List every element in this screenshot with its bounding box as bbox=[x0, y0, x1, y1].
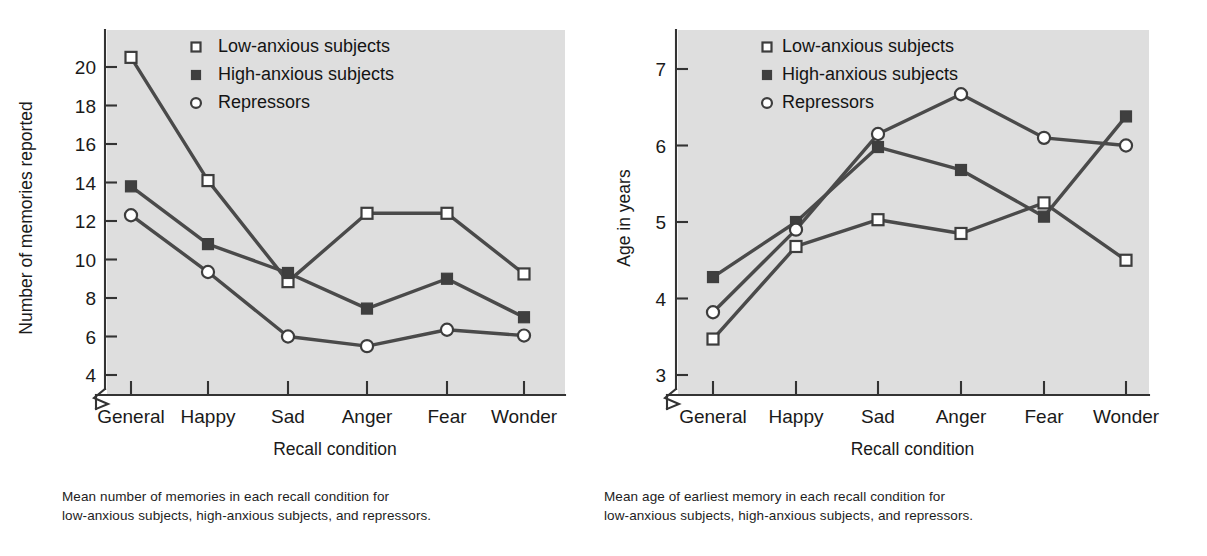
x-axis-tick-label: General bbox=[679, 406, 747, 427]
legend-label: Repressors bbox=[782, 92, 874, 112]
data-point-marker bbox=[126, 52, 137, 63]
data-point-marker bbox=[442, 273, 453, 284]
x-axis-tick-label: Happy bbox=[769, 406, 824, 427]
data-point-marker bbox=[1121, 111, 1132, 122]
legend-open-circle-marker bbox=[762, 98, 772, 108]
y-axis-tick-label: 4 bbox=[655, 289, 666, 310]
age-line-chart: 34567GeneralHappySadAngerFearWonderAge i… bbox=[604, 0, 1207, 480]
data-point-marker bbox=[791, 241, 802, 252]
legend-label: Low-anxious subjects bbox=[218, 36, 390, 56]
data-point-marker bbox=[126, 181, 137, 192]
data-point-marker bbox=[1038, 132, 1050, 144]
y-axis-tick-label: 3 bbox=[655, 365, 666, 386]
data-point-marker bbox=[1121, 255, 1132, 266]
x-axis-tick-label: Happy bbox=[181, 406, 236, 427]
data-point-marker bbox=[361, 340, 373, 352]
data-point-marker bbox=[282, 330, 294, 342]
legend-label: High-anxious subjects bbox=[782, 64, 958, 84]
legend-label: Low-anxious subjects bbox=[782, 36, 954, 56]
legend-label: Repressors bbox=[218, 92, 310, 112]
chart-panel-memories: 468101214161820GeneralHappySadAngerFearW… bbox=[0, 0, 603, 556]
data-point-marker bbox=[362, 208, 373, 219]
chart-panel-age: 34567GeneralHappySadAngerFearWonderAge i… bbox=[604, 0, 1207, 556]
data-point-marker bbox=[872, 128, 884, 140]
data-point-marker bbox=[1039, 197, 1050, 208]
plot-background bbox=[107, 30, 565, 395]
data-point-marker bbox=[708, 334, 719, 345]
x-axis-tick-label: General bbox=[97, 406, 165, 427]
data-point-marker bbox=[956, 164, 967, 175]
data-point-marker bbox=[519, 312, 530, 323]
y-axis-tick-label: 6 bbox=[85, 327, 96, 348]
y-axis-tick-label: 4 bbox=[85, 365, 96, 386]
data-point-marker bbox=[442, 208, 453, 219]
caption-line-1: Mean age of earliest memory in each reca… bbox=[604, 487, 1207, 506]
legend-open-square-marker bbox=[192, 43, 201, 52]
y-axis-tick-label: 20 bbox=[75, 57, 96, 78]
x-axis-tick-label: Sad bbox=[271, 406, 305, 427]
x-axis-tick-label: Fear bbox=[1024, 406, 1064, 427]
caption-line-2: low-anxious subjects, high-anxious subje… bbox=[62, 506, 665, 525]
data-point-marker bbox=[708, 272, 719, 283]
data-point-marker bbox=[1039, 211, 1050, 222]
y-axis-title: Age in years bbox=[614, 169, 634, 267]
y-axis-tick-label: 14 bbox=[75, 173, 97, 194]
data-point-marker bbox=[955, 88, 967, 100]
legend-label: High-anxious subjects bbox=[218, 64, 394, 84]
data-point-marker bbox=[707, 306, 719, 318]
legend-open-square-marker bbox=[763, 43, 772, 52]
memories-line-chart: 468101214161820GeneralHappySadAngerFearW… bbox=[0, 0, 603, 480]
data-point-marker bbox=[790, 224, 802, 236]
chart-caption-memories: Mean number of memories in each recall c… bbox=[0, 487, 665, 525]
y-axis-tick-label: 8 bbox=[85, 288, 96, 309]
data-point-marker bbox=[519, 268, 530, 279]
caption-line-1: Mean number of memories in each recall c… bbox=[62, 487, 665, 506]
data-point-marker bbox=[873, 142, 884, 153]
legend-open-circle-marker bbox=[191, 98, 201, 108]
x-axis-tick-label: Wonder bbox=[1093, 406, 1160, 427]
x-axis-title: Recall condition bbox=[273, 439, 397, 459]
data-point-marker bbox=[956, 228, 967, 239]
chart-caption-age: Mean age of earliest memory in each reca… bbox=[604, 487, 1207, 525]
data-point-marker bbox=[203, 175, 214, 186]
x-axis-title: Recall condition bbox=[851, 439, 975, 459]
caption-line-2: low-anxious subjects, high-anxious subje… bbox=[604, 506, 1207, 525]
data-point-marker bbox=[202, 266, 214, 278]
data-point-marker bbox=[283, 267, 294, 278]
x-axis-tick-label: Anger bbox=[342, 406, 393, 427]
x-axis-tick-label: Anger bbox=[936, 406, 987, 427]
y-axis-tick-label: 7 bbox=[655, 59, 666, 80]
y-axis-tick-label: 18 bbox=[75, 96, 96, 117]
legend-filled-square-marker bbox=[192, 71, 201, 80]
x-axis-tick-label: Sad bbox=[861, 406, 895, 427]
data-point-marker bbox=[203, 239, 214, 250]
data-point-marker bbox=[125, 209, 137, 221]
plot-background bbox=[678, 30, 1149, 395]
data-point-marker bbox=[441, 324, 453, 336]
y-axis-tick-label: 6 bbox=[655, 136, 666, 157]
y-axis-tick-label: 12 bbox=[75, 211, 96, 232]
data-point-marker bbox=[873, 214, 884, 225]
y-axis-tick-label: 16 bbox=[75, 134, 96, 155]
x-axis-tick-label: Wonder bbox=[491, 406, 558, 427]
x-axis-tick-label: Fear bbox=[427, 406, 467, 427]
data-point-marker bbox=[1120, 139, 1132, 151]
legend-filled-square-marker bbox=[763, 71, 772, 80]
data-point-marker bbox=[518, 329, 530, 341]
data-point-marker bbox=[362, 303, 373, 314]
y-axis-title: Number of memories reported bbox=[16, 101, 36, 334]
y-axis-tick-label: 5 bbox=[655, 212, 666, 233]
y-axis-tick-label: 10 bbox=[75, 250, 96, 271]
figure-sheet: 468101214161820GeneralHappySadAngerFearW… bbox=[0, 0, 1207, 556]
